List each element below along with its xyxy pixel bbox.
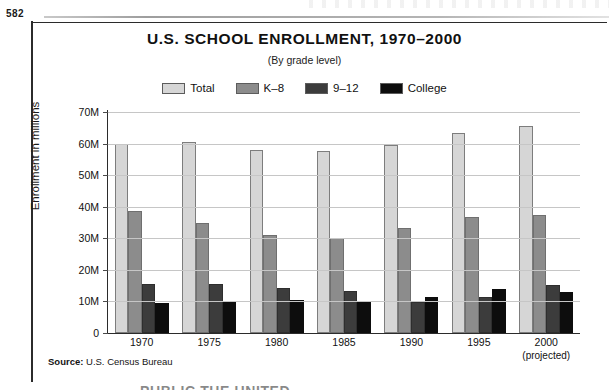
bar bbox=[330, 238, 344, 333]
bar bbox=[250, 150, 264, 333]
bar bbox=[425, 297, 439, 333]
x-axis-label: 1975 bbox=[175, 336, 242, 376]
bar bbox=[546, 285, 560, 333]
source-text: U.S. Census Bureau bbox=[86, 356, 173, 367]
gridline bbox=[108, 207, 580, 208]
bar bbox=[290, 300, 304, 333]
x-axis-label: 2000(projected) bbox=[513, 336, 580, 376]
clipped-bottom-caption: PUBLIC THE UNITED bbox=[140, 383, 460, 390]
x-axis-label: 1985 bbox=[310, 336, 377, 376]
y-axis-tick-label: 10M bbox=[79, 295, 99, 307]
bar bbox=[223, 301, 237, 333]
bar bbox=[196, 223, 210, 333]
bar bbox=[560, 292, 574, 333]
x-axis-label: 1980 bbox=[243, 336, 310, 376]
bar bbox=[142, 284, 156, 333]
y-axis-tick-label: 20M bbox=[79, 264, 99, 276]
plot-area: 70M60M50M40M30M20M10M0 bbox=[108, 112, 580, 333]
bar bbox=[398, 228, 412, 333]
bar-group bbox=[445, 112, 512, 333]
bar bbox=[209, 284, 223, 333]
gridline bbox=[108, 301, 580, 302]
bar bbox=[492, 289, 506, 333]
y-axis-tick bbox=[103, 238, 108, 239]
bar bbox=[479, 297, 493, 333]
x-axis-label: 1990 bbox=[378, 336, 445, 376]
source-note: Source: U.S. Census Bureau bbox=[48, 356, 173, 367]
bar bbox=[344, 291, 358, 333]
y-axis-title: Enrollment in millions bbox=[29, 61, 41, 251]
y-axis-tick-label: 40M bbox=[79, 201, 99, 213]
y-axis-tick-label: 30M bbox=[79, 232, 99, 244]
plot-wrapper: Enrollment in millions 70M60M50M40M30M20… bbox=[0, 0, 609, 390]
bar-group bbox=[513, 112, 580, 333]
gridline bbox=[108, 112, 580, 113]
gridline bbox=[108, 175, 580, 176]
y-axis-tick-label: 50M bbox=[79, 169, 99, 181]
bar-group bbox=[310, 112, 377, 333]
gridline bbox=[108, 144, 580, 145]
y-axis-tick bbox=[103, 270, 108, 271]
bar-group bbox=[175, 112, 242, 333]
bar bbox=[277, 288, 291, 333]
y-axis-tick-label: 0 bbox=[93, 327, 99, 339]
bar bbox=[465, 217, 479, 333]
y-axis-tick-label: 70M bbox=[79, 106, 99, 118]
y-axis-tick bbox=[103, 301, 108, 302]
gridline bbox=[108, 238, 580, 239]
y-axis-tick bbox=[103, 175, 108, 176]
y-axis-tick-label: 60M bbox=[79, 138, 99, 150]
y-axis-tick bbox=[103, 144, 108, 145]
bar-group bbox=[108, 112, 175, 333]
bar bbox=[411, 302, 425, 333]
y-axis-tick bbox=[103, 207, 108, 208]
x-axis-label: 1995 bbox=[445, 336, 512, 376]
bar bbox=[263, 235, 277, 333]
bar-group bbox=[378, 112, 445, 333]
y-axis-tick bbox=[103, 333, 108, 334]
bar-groups bbox=[108, 112, 580, 333]
bar bbox=[155, 303, 169, 333]
source-label: Source: bbox=[48, 356, 83, 367]
gridline bbox=[108, 270, 580, 271]
bar bbox=[128, 211, 142, 333]
bar bbox=[357, 301, 371, 333]
bar bbox=[533, 215, 547, 333]
x-axis-label-note: (projected) bbox=[513, 349, 580, 362]
bar bbox=[317, 151, 331, 333]
bar bbox=[452, 133, 466, 333]
y-axis-tick bbox=[103, 112, 108, 113]
x-axis-labels: 1970197519801985199019952000(projected) bbox=[108, 336, 580, 376]
bar-group bbox=[243, 112, 310, 333]
